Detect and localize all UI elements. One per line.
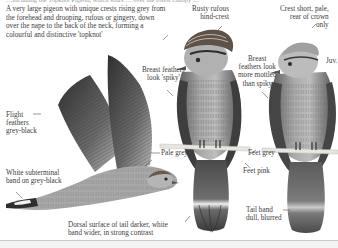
label-dorsal-surface-tail: Dorsal surface of tail darker, white ban… xyxy=(68,221,168,237)
label-crest-short-pale: Crest short, pale, rear of crown only xyxy=(280,5,329,30)
label-line: Breast feathers xyxy=(142,66,185,74)
label-feet-grey: Feet grey xyxy=(248,149,275,157)
label-line: band on grey-black xyxy=(6,177,61,185)
label-line: feathers xyxy=(6,119,37,127)
label-line: feathers look xyxy=(238,63,277,71)
label-rusty-hind-crest: Rusty rufous hind-crest xyxy=(192,5,229,21)
label-juvenile: Juv. xyxy=(326,57,337,65)
label-tail-band-dull: Tail band dull, blurred xyxy=(246,206,282,222)
label-pale-grey: Pale grey xyxy=(161,149,188,157)
field-guide-page: …including the Topknot Pigeon, which soa… xyxy=(0,0,338,248)
label-line: more mottled xyxy=(238,71,277,79)
label-breast-spiky: Breast feathers look 'spiky' xyxy=(142,66,185,82)
page-bottom-band xyxy=(0,241,338,248)
label-feet-pink: Feet pink xyxy=(243,167,270,175)
label-line: rear of crown xyxy=(280,13,329,21)
perched-adult-figure xyxy=(160,30,250,232)
label-line: White subterminal xyxy=(6,169,61,177)
label-line: Rusty rufous xyxy=(192,5,229,13)
label-white-subterminal-band: White subterminal band on grey-black xyxy=(6,169,61,185)
label-line: look 'spiky' xyxy=(142,74,185,82)
intro-description: A very large pigeon with unique crests r… xyxy=(6,5,168,39)
label-line: dull, blurred xyxy=(246,214,282,222)
label-breast-mottled: Breast feathers look more mottled than s… xyxy=(238,55,277,88)
label-line: Breast xyxy=(238,55,277,63)
label-line: hind-crest xyxy=(192,13,229,21)
label-line: only xyxy=(280,21,329,29)
label-line: than spiky xyxy=(238,80,277,88)
label-line: Flight xyxy=(6,111,37,119)
label-line: Crest short, pale, xyxy=(280,5,329,13)
label-line: Tail band xyxy=(246,206,282,214)
label-line: band wider, in strong contrast xyxy=(68,229,168,237)
label-flight-feathers: Flight feathers grey-black xyxy=(6,111,37,136)
label-line: Dorsal surface of tail darker, white xyxy=(68,221,168,229)
label-line: grey-black xyxy=(6,127,37,135)
